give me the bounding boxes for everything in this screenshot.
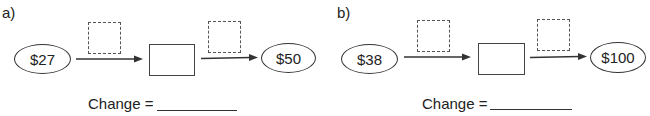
intermediate-answer-box[interactable] [478, 43, 525, 75]
arrow-right-icon [201, 53, 259, 63]
end-value: $100 [601, 49, 634, 66]
intermediate-answer-box[interactable] [149, 44, 195, 76]
problem-label: a) [2, 4, 15, 21]
change-answer-blank[interactable] [490, 109, 572, 110]
change-label: Change = [422, 95, 487, 112]
start-value-oval: $27 [14, 44, 71, 74]
change-label: Change = [88, 95, 153, 112]
end-value: $50 [276, 50, 301, 67]
step-2-answer-box[interactable] [537, 19, 570, 51]
step-2-answer-box[interactable] [208, 21, 241, 53]
arrow-right-icon [530, 52, 588, 62]
arrow-right-icon [76, 54, 144, 64]
change-answer-blank[interactable] [157, 110, 237, 111]
start-value: $38 [357, 51, 382, 68]
problem-label: b) [337, 4, 350, 21]
end-value-oval: $100 [590, 42, 646, 73]
arrow-right-icon [404, 52, 472, 62]
end-value-oval: $50 [261, 43, 316, 73]
start-value: $27 [30, 51, 55, 68]
start-value-oval: $38 [341, 44, 398, 74]
step-1-answer-box[interactable] [88, 22, 121, 54]
step-1-answer-box[interactable] [417, 20, 450, 52]
